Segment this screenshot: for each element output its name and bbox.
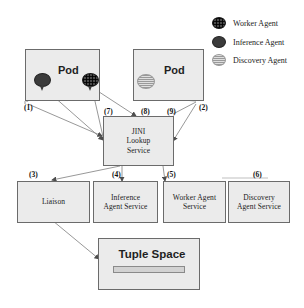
tuple-space-box	[98, 238, 200, 290]
wire-2-to-jini	[173, 104, 196, 141]
wire-9-segment	[173, 102, 196, 114]
worker-agent-service-box: Worker Agent Service	[163, 181, 226, 223]
liaison-label: Liaison	[42, 197, 65, 206]
wire-jini-to-liaison	[52, 166, 120, 180]
jini-line-1: JINI	[127, 127, 151, 136]
step-label-3: (3)	[29, 170, 38, 179]
pod-right-label: Pod	[164, 64, 185, 76]
jini-lookup-service-box: JINI Lookup Service	[103, 116, 174, 166]
wire-1-to-jini	[28, 104, 102, 136]
discovery-agent-icon	[212, 54, 226, 66]
inference-service-line-2: Agent Service	[104, 202, 148, 211]
jini-line-2: Lookup	[127, 136, 151, 145]
tuple-space-bar	[113, 266, 185, 273]
jini-line-3: Service	[127, 146, 151, 155]
discovery-agent-service-box: Discovery Agent Service	[228, 181, 290, 223]
step-label-6: (6)	[253, 170, 262, 179]
worker-service-line-2: Service	[173, 202, 216, 211]
discovery-service-line-2: Agent Service	[237, 202, 281, 211]
pod-left-label: Pod	[58, 64, 79, 76]
inference-agent-icon-pod-left	[34, 73, 51, 87]
step-label-1: (1)	[24, 103, 33, 112]
legend-label-discovery: Discovery Agent	[233, 56, 287, 65]
legend-item-discovery: Discovery Agent	[212, 54, 287, 66]
worker-agent-icon	[212, 17, 226, 29]
inference-service-line-1: Inference	[104, 193, 148, 202]
legend-label-worker: Worker Agent	[233, 19, 278, 28]
worker-agent-service-label: Worker Agent Service	[173, 193, 216, 212]
step-label-4: (4)	[112, 170, 121, 179]
diagram-canvas: Worker Agent Inference Agent Discovery A…	[0, 0, 304, 308]
jini-lookup-service-label: JINI Lookup Service	[127, 127, 151, 155]
discovery-agent-icon-pod-right	[137, 74, 155, 89]
worker-agent-icon-pod-left	[82, 73, 99, 87]
inference-agent-service-box: Inference Agent Service	[93, 181, 158, 223]
step-label-8: (8)	[141, 107, 150, 116]
worker-agent-tail	[88, 86, 92, 91]
legend-item-inference: Inference Agent	[212, 36, 284, 48]
inference-agent-icon	[212, 36, 226, 48]
step-label-9: (9)	[167, 107, 176, 116]
tuple-space-label: Tuple Space	[0, 248, 304, 260]
step-label-2: (2)	[199, 103, 208, 112]
discovery-service-line-1: Discovery	[237, 193, 281, 202]
discovery-agent-service-label: Discovery Agent Service	[237, 193, 281, 212]
inference-agent-tail	[40, 86, 44, 91]
wire-jini-to-worker-service	[163, 166, 165, 181]
legend-label-inference: Inference Agent	[233, 38, 284, 47]
step-label-7: (7)	[104, 107, 113, 116]
inference-agent-service-label: Inference Agent Service	[104, 193, 148, 212]
liaison-box: Liaison	[17, 181, 90, 223]
worker-service-line-1: Worker Agent	[173, 193, 216, 202]
legend-item-worker: Worker Agent	[212, 17, 278, 29]
step-label-5: (5)	[167, 170, 176, 179]
